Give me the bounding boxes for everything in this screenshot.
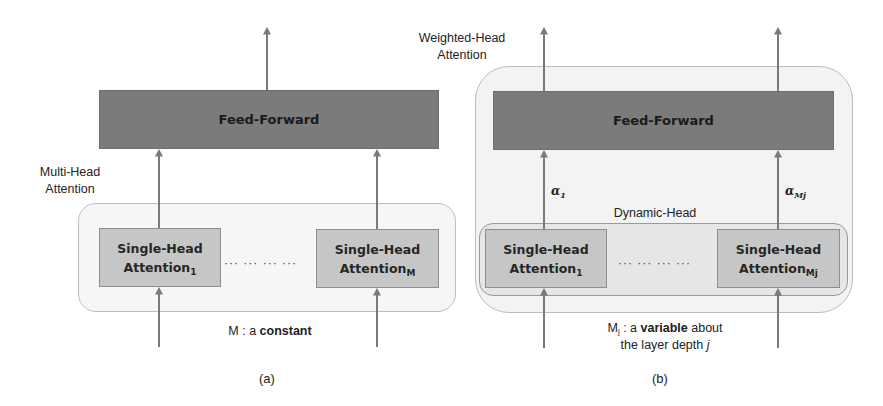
feed-forward-label: Feed-Forward xyxy=(613,113,714,128)
single-head-attention-mj-b: Single-Head AttentionMj xyxy=(717,229,840,288)
feed-forward-block-b: Feed-Forward xyxy=(493,91,834,150)
variable-note: Mj : a variable about the layer depth j xyxy=(570,320,760,354)
alpha-1-weight: α1 xyxy=(551,184,566,198)
caption-b: (b) xyxy=(652,371,668,386)
single-head-attention-1-b: Single-Head Attention1 xyxy=(485,229,607,288)
feed-forward-block-a: Feed-Forward xyxy=(99,90,439,149)
caption-a: (a) xyxy=(259,371,275,386)
dynamic-head-label: Dynamic-Head xyxy=(590,205,720,222)
single-head-attention-1-a: Single-Head Attention1 xyxy=(99,228,221,287)
single-head-attention-m-a: Single-Head AttentionM xyxy=(316,229,439,288)
ellipsis-b: ··· ··· ··· ··· xyxy=(618,256,691,270)
ellipsis-a: ··· ··· ··· ··· xyxy=(224,256,297,270)
feed-forward-label: Feed-Forward xyxy=(219,112,320,127)
weighted-head-attention-label: Weighted-Head Attention xyxy=(400,30,524,64)
constant-note: M : a constant xyxy=(190,323,350,340)
multi-head-attention-label: Multi-Head Attention xyxy=(22,164,118,198)
alpha-mj-weight: αMj xyxy=(785,184,806,198)
